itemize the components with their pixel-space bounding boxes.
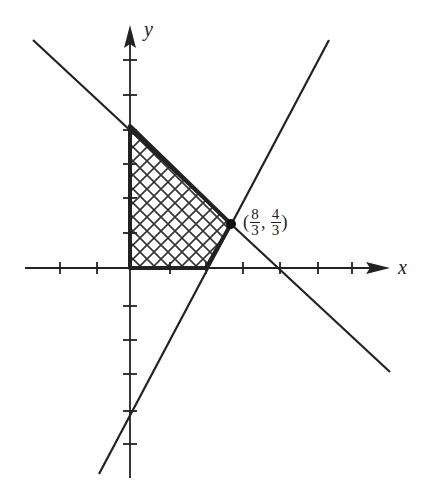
x-axis-label: x [398,256,407,279]
point-label: ( 8 3 , 4 3 ) [243,207,288,238]
intersection-point [226,219,236,229]
separator: , [261,212,266,233]
feasible-region [120,120,240,280]
open-paren: ( [243,212,249,233]
y-fraction: 4 3 [271,207,281,238]
x-denominator: 3 [251,223,259,238]
close-paren: ) [282,212,288,233]
y-numerator: 4 [272,207,280,222]
y-axis-label: y [144,18,153,41]
x-fraction: 8 3 [250,207,260,238]
x-numerator: 8 [251,207,259,222]
coordinate-plane [0,0,431,499]
line-x-plus-y-eq-4 [33,40,390,372]
y-denominator: 3 [272,223,280,238]
